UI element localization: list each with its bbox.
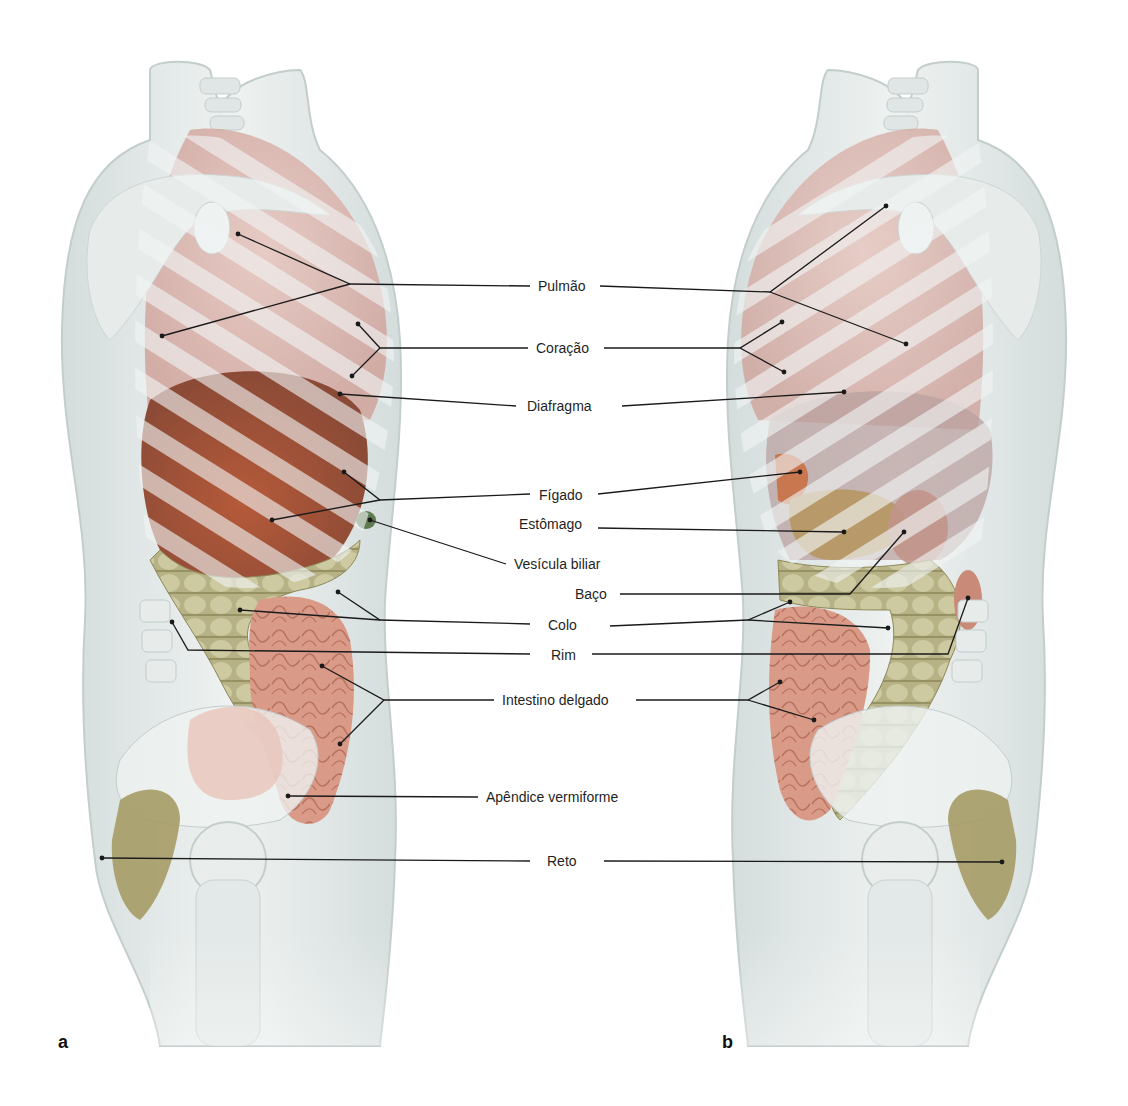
leader-dot [338, 742, 343, 747]
label-coracao: Coração [534, 340, 591, 356]
anatomy-figure: PulmãoCoraçãoDiafragmaFígadoEstômagoVesí… [0, 0, 1128, 1106]
leader-dot [160, 334, 165, 339]
appendix-region-a [187, 707, 282, 800]
leader-dot [1000, 860, 1005, 865]
anatomy-illustration [0, 0, 1128, 1106]
label-baco: Baço [573, 586, 609, 602]
leader-dot [966, 596, 971, 601]
label-figado: Fígado [537, 487, 585, 503]
leader-dot [884, 204, 889, 209]
leader-dot [798, 470, 803, 475]
leader-dot [782, 370, 787, 375]
leader-dot [320, 664, 325, 669]
leader-dot [778, 680, 783, 685]
panel-letter-b: b [722, 1032, 733, 1053]
leader-dot [904, 342, 909, 347]
leader-dot [356, 322, 361, 327]
leader-dot [886, 626, 891, 631]
label-vesicula-biliar: Vesícula biliar [512, 556, 602, 572]
leader-dot [336, 590, 341, 595]
leader-dot [812, 718, 817, 723]
leader-dot [342, 470, 347, 475]
leader-dot [270, 518, 275, 523]
label-apendice-vermiforme: Apêndice vermiforme [484, 789, 620, 805]
panel-b [727, 62, 1066, 1046]
leader-dot [368, 518, 373, 523]
leader-dot [902, 530, 907, 535]
leader-dot [238, 608, 243, 613]
leader-dot [236, 232, 241, 237]
panel-a [62, 62, 401, 1046]
label-estomago: Estômago [517, 516, 584, 532]
label-rim: Rim [549, 647, 578, 663]
leader-dot [100, 856, 105, 861]
leader-dot [788, 600, 793, 605]
leader-dot [338, 392, 343, 397]
leader-dot [780, 320, 785, 325]
leader-dot [170, 620, 175, 625]
label-colo: Colo [546, 617, 579, 633]
leader-dot [842, 390, 847, 395]
label-pulmao: Pulmão [536, 278, 587, 294]
label-intestino-delgado: Intestino delgado [500, 692, 611, 708]
leader-dot [842, 530, 847, 535]
label-diafragma: Diafragma [525, 398, 594, 414]
leader-dot [286, 794, 291, 799]
label-reto: Reto [545, 853, 579, 869]
panel-letter-a: a [58, 1032, 68, 1053]
leader-dot [350, 374, 355, 379]
